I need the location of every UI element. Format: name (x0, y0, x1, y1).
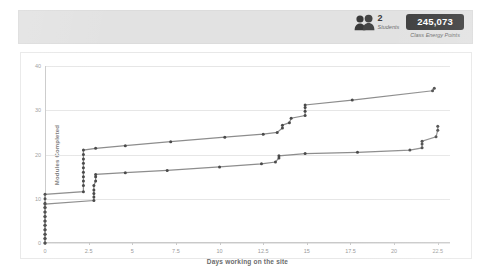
data-point (166, 169, 169, 172)
data-point (94, 173, 97, 176)
data-point (44, 224, 47, 227)
data-point (44, 233, 47, 236)
data-point (124, 144, 127, 147)
plot-area: Modules Completed Days working on the si… (45, 66, 450, 243)
y-tick-label-0: 0 (38, 240, 41, 246)
data-point (82, 153, 85, 156)
data-point (92, 184, 95, 187)
data-point (431, 89, 434, 92)
data-point (82, 184, 85, 187)
x-tick-label-12.5: 12.5 (258, 248, 269, 254)
data-point (436, 125, 439, 128)
y-tick-label-10: 10 (35, 196, 41, 202)
data-point (351, 99, 354, 102)
x-tick-label-15: 15 (304, 248, 310, 254)
x-tick-label-22.5: 22.5 (432, 248, 443, 254)
data-point (82, 157, 85, 160)
data-point (82, 175, 85, 178)
data-point (44, 193, 47, 196)
data-point (92, 188, 95, 191)
data-point (44, 242, 47, 245)
data-point (44, 219, 47, 222)
series-line-2 (45, 126, 438, 243)
data-point (82, 149, 85, 152)
students-count: 2 (378, 14, 383, 23)
students-label: Students (378, 25, 400, 31)
y-tick-label-40: 40 (35, 63, 41, 69)
data-point (433, 87, 436, 90)
energy-points-label: Class Energy Points (410, 32, 460, 38)
data-point (82, 166, 85, 169)
data-point (304, 106, 307, 109)
data-point (288, 121, 291, 124)
x-tick-label-7.5: 7.5 (172, 248, 180, 254)
data-point (262, 133, 265, 136)
data-point (44, 206, 47, 209)
data-point (421, 140, 424, 143)
x-tick-label-5: 5 (131, 248, 134, 254)
x-tick-label-10: 10 (217, 248, 223, 254)
x-axis-title: Days working on the site (207, 258, 288, 265)
data-point (260, 162, 263, 165)
data-point (408, 149, 411, 152)
x-tick-label-17.5: 17.5 (345, 248, 356, 254)
data-point (44, 215, 47, 218)
data-point (218, 165, 221, 168)
data-point (304, 152, 307, 155)
x-tick-label-20: 20 (391, 248, 397, 254)
y-tick-label-30: 30 (35, 107, 41, 113)
data-point (277, 154, 280, 157)
data-point (82, 180, 85, 183)
data-point (435, 135, 438, 138)
data-point (304, 114, 307, 117)
people-icon (354, 14, 375, 31)
data-point (281, 126, 284, 129)
data-point (92, 192, 95, 195)
data-point (44, 203, 47, 206)
energy-points-stat: 245,073 Class Energy Points (406, 14, 464, 38)
x-tick-label-2.5: 2.5 (85, 248, 93, 254)
class-stats-band: 2 Students 245,073 Class Energy Points (18, 10, 473, 44)
data-point (304, 110, 307, 113)
data-point (421, 146, 424, 149)
data-point (304, 103, 307, 106)
data-point (94, 180, 97, 183)
students-stat: 2 Students (354, 14, 400, 31)
data-point (44, 228, 47, 231)
data-point (421, 142, 424, 145)
data-point (436, 129, 439, 132)
data-point (276, 131, 279, 134)
data-point (82, 190, 85, 193)
data-point (92, 199, 95, 202)
data-point (92, 195, 95, 198)
data-point (44, 197, 47, 200)
series-plot (45, 66, 450, 243)
data-point (356, 151, 359, 154)
data-point (94, 147, 97, 150)
chart-panel: Modules Completed Days working on the si… (20, 52, 472, 259)
data-point (274, 161, 277, 164)
data-point (124, 171, 127, 174)
stats-group: 2 Students 245,073 Class Energy Points (354, 14, 464, 38)
data-point (82, 171, 85, 174)
data-point (281, 124, 284, 127)
data-point (169, 140, 172, 143)
data-point (290, 117, 293, 120)
data-point (82, 162, 85, 165)
students-text: 2 Students (378, 14, 400, 31)
data-point (223, 136, 226, 139)
data-point (44, 211, 47, 214)
x-tick-label-0: 0 (43, 248, 46, 254)
data-point (44, 237, 47, 240)
y-tick-label-20: 20 (35, 152, 41, 158)
gridline-y-0 (45, 243, 450, 244)
energy-points-value: 245,073 (406, 14, 464, 30)
